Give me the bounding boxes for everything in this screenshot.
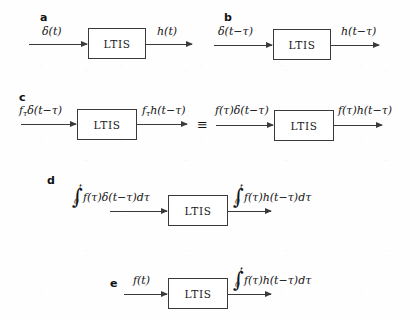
panel-a-ltis-block: LTIS bbox=[88, 28, 146, 59]
panel-c-right-ltis-block: LTIS bbox=[274, 110, 334, 141]
panel-d-input-lower-limit: 0 bbox=[74, 198, 79, 206]
panel-e-ltis-label: LTIS bbox=[185, 288, 212, 300]
panel-c-left-output-arrow bbox=[137, 124, 187, 125]
panel-a-input-label: δ(t) bbox=[42, 26, 62, 37]
panel-d-output-integral-icon: ∫t0 bbox=[231, 192, 244, 203]
panel-d-ltis-label: LTIS bbox=[185, 205, 212, 217]
panel-e-input-arrow bbox=[124, 294, 167, 295]
panel-d-input-upper-limit: t bbox=[79, 183, 82, 191]
panel-e-input-label: f(t) bbox=[133, 275, 150, 286]
panel-c-right-output-arrow bbox=[334, 125, 382, 126]
panel-b-output-arrow bbox=[331, 45, 379, 46]
panel-d-input-integrand: f(τ)δ(t−τ)dτ bbox=[83, 191, 150, 204]
panel-d-input-label: ∫t0f(τ)δ(t−τ)dτ bbox=[70, 192, 150, 203]
panel-d-ltis-block: LTIS bbox=[168, 195, 228, 226]
panel-b-input-arrow bbox=[214, 45, 272, 46]
panel-c-right-input-arrow bbox=[216, 125, 273, 126]
panel-e-output-integrand: f(τ)h(t−τ)dτ bbox=[244, 274, 311, 287]
panel-d-input-arrow bbox=[110, 211, 167, 212]
panel-c-left-input-arrow bbox=[21, 124, 76, 125]
panel-d-input-integral-icon: ∫t0 bbox=[70, 192, 83, 203]
panel-b-ltis-block: LTIS bbox=[273, 29, 331, 60]
panel-a-output-label: h(t) bbox=[157, 26, 177, 37]
panel-e-output-label: ∫t0f(τ)h(t−τ)dτ bbox=[231, 275, 311, 286]
panel-c-left-output-main: h(t−τ) bbox=[150, 104, 185, 117]
panel-c-left-output-label: fτh(t−τ) bbox=[142, 105, 186, 117]
panel-a-output-arrow bbox=[146, 44, 192, 45]
panel-d-letter: d bbox=[47, 175, 55, 186]
panel-c-left-input-label: fτδ(t−τ) bbox=[19, 105, 62, 117]
panel-a-input-arrow bbox=[29, 44, 87, 45]
panel-e-output-upper-limit: t bbox=[240, 266, 243, 274]
panel-d-output-integrand: f(τ)h(t−τ)dτ bbox=[244, 191, 311, 204]
panel-e-output-arrow bbox=[228, 294, 271, 295]
scan-speckle-overlay bbox=[0, 0, 420, 320]
panel-b-ltis-label: LTIS bbox=[289, 39, 316, 51]
panel-c-left-input-main: δ(t−τ) bbox=[27, 104, 62, 117]
panel-b-input-label: δ(t−τ) bbox=[218, 26, 253, 37]
panel-c-left-ltis-label: LTIS bbox=[94, 119, 121, 131]
panel-e-output-integral-icon: ∫t0 bbox=[231, 275, 244, 286]
panel-d-output-arrow bbox=[228, 211, 271, 212]
panel-e-output-lower-limit: 0 bbox=[235, 281, 240, 289]
ltis-block-diagram-figure: a δ(t) LTIS h(t) b δ(t−τ) LTIS h(t−τ) c … bbox=[0, 0, 420, 320]
panel-c-letter: c bbox=[19, 92, 26, 103]
panel-e-ltis-block: LTIS bbox=[168, 278, 228, 309]
panel-d-output-lower-limit: 0 bbox=[235, 198, 240, 206]
panel-d-output-label: ∫t0f(τ)h(t−τ)dτ bbox=[231, 192, 311, 203]
panel-a-letter: a bbox=[40, 12, 47, 23]
panel-d-output-upper-limit: t bbox=[240, 183, 243, 191]
panel-a-ltis-label: LTIS bbox=[104, 38, 131, 50]
panel-b-output-label: h(t−τ) bbox=[341, 26, 376, 37]
panel-c-equivalence-symbol: ≡ bbox=[197, 117, 208, 132]
panel-c-right-input-label: f(τ)δ(t−τ) bbox=[215, 105, 269, 116]
panel-c-left-ltis-block: LTIS bbox=[77, 109, 137, 140]
panel-c-right-output-label: f(τ)h(t−τ) bbox=[338, 105, 392, 116]
panel-c-right-ltis-label: LTIS bbox=[291, 120, 318, 132]
panel-b-letter: b bbox=[224, 12, 232, 23]
panel-e-letter: e bbox=[110, 278, 117, 289]
